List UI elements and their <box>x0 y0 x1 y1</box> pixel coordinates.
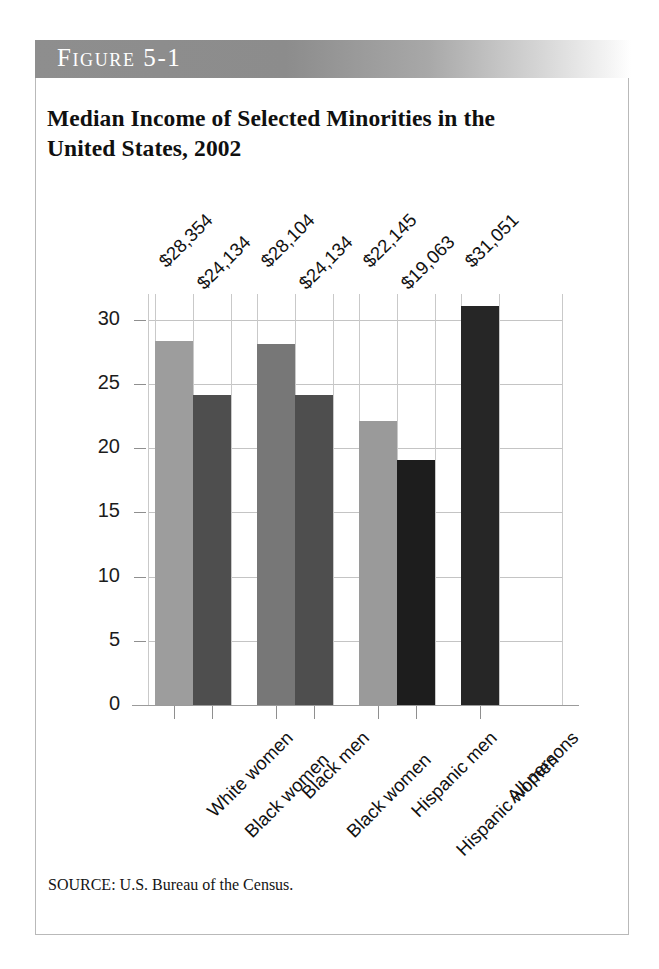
chart-title: Median Income of Selected Minorities in … <box>47 103 547 163</box>
figure-card <box>35 40 629 935</box>
figure-number-label: Figure 5-1 <box>57 44 181 72</box>
source-note: SOURCE: U.S. Bureau of the Census. <box>48 876 293 894</box>
figure-banner: Figure 5-1 <box>35 40 631 78</box>
